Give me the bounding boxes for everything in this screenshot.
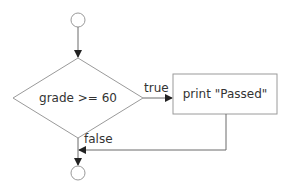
flowchart-canvas: grade >= 60 true print "Passed" false <box>0 0 291 192</box>
decision-label: grade >= 60 <box>39 91 117 105</box>
true-label: true <box>144 81 169 95</box>
start-node <box>71 13 85 27</box>
action-label: print "Passed" <box>183 87 268 101</box>
false-label: false <box>84 132 113 146</box>
end-node <box>71 166 85 180</box>
